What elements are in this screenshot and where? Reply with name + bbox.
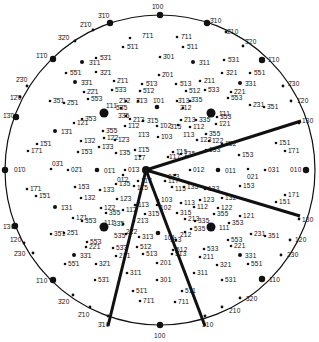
minor-pole: [215, 123, 218, 126]
minor-pole-label: 15̄3: [78, 183, 89, 190]
rim-pole: [23, 242, 26, 245]
major-pole: [191, 60, 195, 64]
major-pole-label: 331: [245, 252, 256, 259]
minor-pole: [156, 279, 159, 282]
minor-pole-label: 11̄3: [138, 201, 149, 208]
minor-pole: [171, 186, 174, 189]
rim-pole-label: 3̄2̄0: [58, 34, 69, 41]
rim-pole: [298, 122, 301, 125]
minor-pole-label: 313: [170, 236, 181, 243]
minor-pole-label: 53̄3: [116, 244, 127, 251]
minor-pole: [174, 301, 177, 304]
minor-pole: [249, 72, 252, 75]
minor-pole: [132, 290, 135, 293]
minor-pole: [112, 247, 115, 250]
minor-pole-label: 11̄2: [126, 206, 137, 213]
minor-pole-label: 1̄71: [288, 147, 299, 154]
minor-pole-label: 5̄5̄3: [91, 95, 102, 102]
minor-pole: [217, 207, 220, 210]
minor-pole: [115, 183, 118, 186]
minor-pole-label: 1̄17: [169, 153, 180, 160]
rim-pole: [290, 100, 293, 103]
minor-pole: [239, 185, 242, 188]
minor-pole: [185, 90, 188, 93]
minor-pole-label: 03̄1: [52, 160, 63, 167]
minor-pole: [216, 264, 219, 267]
minor-pole-label: 511: [185, 287, 196, 294]
minor-pole-label: 11̄7: [141, 177, 152, 184]
rim-pole: [2, 167, 8, 173]
rim-pole: [50, 56, 56, 62]
rim-pole: [259, 57, 265, 63]
minor-pole-label: 3̄1̄3: [136, 97, 147, 104]
major-pole: [53, 205, 57, 209]
major-pole: [80, 60, 84, 64]
minor-pole-label: 1̄7̄1: [31, 147, 42, 154]
minor-pole-label: 5̄1̄1: [127, 43, 138, 50]
rim-pole-label: 2̄10: [78, 311, 89, 318]
minor-pole-label: 353: [232, 219, 243, 226]
rim-pole: [282, 85, 285, 88]
major-pole-label: 3̄11: [199, 59, 210, 66]
rim-pole: [239, 297, 242, 300]
rim-pole-label: 1̄3̄0: [3, 112, 14, 119]
minor-pole-label: 1̄51: [279, 139, 290, 146]
rim-pole-label: 110: [269, 276, 280, 283]
minor-pole-label: 115: [175, 185, 186, 192]
minor-pole-label: 231: [254, 230, 265, 237]
minor-pole: [138, 236, 141, 239]
minor-pole-label: 3̄5̄1: [53, 97, 64, 104]
minor-pole-label: 1̄1̄2: [128, 122, 139, 129]
minor-pole-label: 135: [187, 183, 198, 190]
minor-pole-label: 1̄21: [219, 120, 230, 127]
minor-pole: [156, 125, 159, 128]
rim-pole-label: 120: [295, 236, 306, 243]
minor-pole-label: 5̄3̄3: [115, 86, 126, 93]
minor-pole: [113, 80, 116, 83]
minor-pole: [103, 137, 106, 140]
minor-pole: [176, 212, 179, 215]
major-pole-label: 011: [225, 167, 236, 174]
major-pole-label: 3̄31: [245, 80, 256, 87]
minor-pole: [230, 245, 233, 248]
rim-pole-label: 310: [202, 321, 213, 328]
major-pole: [100, 109, 109, 118]
rim-pole: [89, 306, 92, 309]
major-pole-label: 1̄01: [153, 97, 164, 104]
minor-pole: [205, 133, 208, 136]
rim-pole-label: 230: [287, 251, 298, 258]
rim-pole: [107, 315, 110, 318]
minor-pole-label: 031: [268, 166, 279, 173]
minor-pole-label: 711: [178, 298, 189, 305]
minor-pole-label: 12̄3: [120, 195, 131, 202]
minor-pole-label: 5̄1̄2: [143, 87, 154, 94]
minor-pole: [204, 89, 207, 92]
minor-pole-label: 355: [217, 210, 228, 217]
rim-pole-label: 2̄1̄0: [80, 21, 91, 28]
minor-pole: [172, 249, 175, 252]
minor-pole-label: 51̄3: [146, 250, 157, 257]
minor-pole: [156, 204, 159, 207]
minor-pole: [189, 169, 192, 172]
minor-pole: [175, 83, 178, 86]
minor-pole: [157, 136, 160, 139]
major-pole: [238, 253, 242, 257]
minor-pole-label: 1̄2̄3: [118, 136, 129, 143]
minor-pole: [99, 189, 102, 192]
rim-pole-label: 1̄10: [268, 56, 279, 63]
minor-pole-label: 3̄53: [220, 113, 231, 120]
minor-pole: [142, 253, 145, 256]
minor-pole: [190, 228, 193, 231]
minor-pole: [238, 154, 241, 157]
minor-pole-label: 35̄1: [54, 230, 65, 237]
rim-pole-label: 01̄0: [14, 166, 25, 173]
minor-pole: [176, 36, 179, 39]
minor-pole-label: 121: [243, 212, 254, 219]
minor-pole: [50, 168, 53, 171]
minor-pole: [221, 279, 224, 282]
major-pole-label: 1̄3̄1: [61, 128, 72, 135]
rim-pole: [221, 306, 224, 309]
minor-pole-label: 321: [220, 261, 231, 268]
minor-pole-label: 315: [180, 209, 191, 216]
minor-pole-label: 1̄3̄2: [84, 137, 95, 144]
